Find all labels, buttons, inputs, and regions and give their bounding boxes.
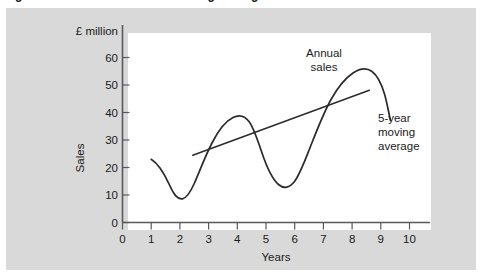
sales-line-chart: 0 10 20 30 40 50 60 £ million Sales <box>6 8 476 270</box>
x-tick-label-8: 8 <box>349 233 355 245</box>
x-tick-label-1: 1 <box>148 233 154 245</box>
caption-strip: Figure 4.6 Annual sales and moving avera… <box>0 0 482 7</box>
x-tick-label-2: 2 <box>177 233 183 245</box>
x-tick-label-0: 0 <box>119 233 125 245</box>
y-tick-label-30: 30 <box>105 134 118 146</box>
y-tick-label-60: 60 <box>105 52 118 64</box>
y-tick-label-40: 40 <box>105 107 118 119</box>
figure-caption-text: Figure 4.6 Annual sales and moving avera… <box>4 0 265 2</box>
y-tick-label-0: 0 <box>112 217 118 229</box>
x-axis-title: Years <box>262 251 291 263</box>
figure-panel: 0 10 20 30 40 50 60 £ million Sales <box>6 8 476 270</box>
annual-sales-curve <box>151 69 390 199</box>
y-axis-title: Sales <box>74 143 86 172</box>
annual-sales-label-line2: sales <box>311 61 338 73</box>
x-tick-label-4: 4 <box>234 233 241 245</box>
moving-average-label-line2: moving <box>378 126 415 138</box>
x-tick-label-7: 7 <box>320 233 326 245</box>
figure-screenshot: Figure 4.6 Annual sales and moving avera… <box>0 0 482 275</box>
x-tick-marks <box>123 223 410 230</box>
y-tick-label-20: 20 <box>105 162 118 174</box>
y-axis-unit-label: £ million <box>76 25 118 37</box>
x-tick-label-6: 6 <box>291 233 297 245</box>
annual-sales-label-line1: Annual <box>306 47 342 59</box>
y-tick-label-10: 10 <box>105 189 118 201</box>
x-tick-label-9: 9 <box>378 233 384 245</box>
moving-average-label-line3: average <box>378 140 420 152</box>
y-tick-marks <box>123 58 130 223</box>
x-tick-label-3: 3 <box>205 233 211 245</box>
x-tick-label-5: 5 <box>263 233 269 245</box>
x-tick-label-10: 10 <box>403 233 416 245</box>
moving-average-label-line1: 5-year <box>378 112 411 124</box>
moving-average-line <box>193 90 369 155</box>
y-tick-label-50: 50 <box>105 79 118 91</box>
